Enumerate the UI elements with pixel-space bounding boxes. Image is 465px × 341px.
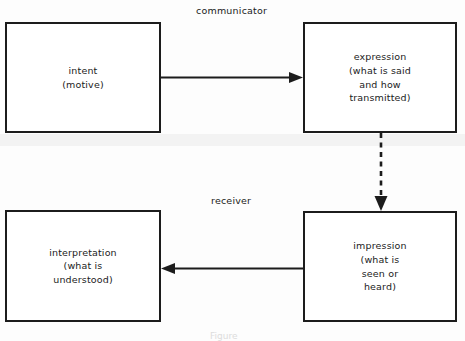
diagram-canvas: communicator receiver intent (motive) ex… xyxy=(0,0,465,341)
edge-intent-to-expression xyxy=(161,72,303,83)
arrow-head-left xyxy=(161,263,175,274)
diagram-edges xyxy=(0,0,465,341)
arrow-head-right xyxy=(289,72,303,83)
edge-expression-to-impression xyxy=(375,133,388,211)
figure-caption: Figure xyxy=(210,331,237,341)
arrow-head-down xyxy=(375,196,388,211)
edge-impression-to-interpretation xyxy=(161,263,303,274)
